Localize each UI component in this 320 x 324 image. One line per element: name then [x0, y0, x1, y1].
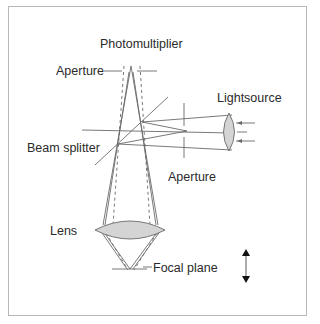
label-lens: Lens: [50, 224, 77, 238]
double-arrow-icon: [242, 249, 250, 283]
label-photomultiplier: Photomultiplier: [100, 37, 183, 51]
label-focal-plane: Focal plane: [153, 261, 218, 275]
label-beam-splitter: Beam splitter: [27, 141, 100, 155]
source-rays: [236, 123, 255, 141]
label-lightsource: Lightsource: [217, 91, 282, 105]
lightsource-lens: [224, 113, 235, 151]
label-aperture-right: Aperture: [168, 170, 216, 184]
light-path: [82, 115, 232, 150]
label-aperture-top: Aperture: [56, 64, 104, 78]
